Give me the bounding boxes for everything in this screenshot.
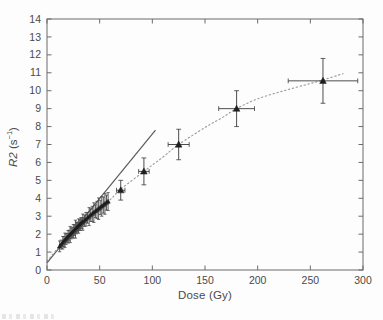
y-tick-label: 14: [29, 13, 41, 25]
y-tick-label: 10: [29, 84, 41, 96]
cropped-caption-artifact: [2, 314, 54, 319]
y-axis-label: R2 (s−1): [7, 87, 23, 207]
x-axis-label: Dose (Gy): [47, 289, 363, 301]
y-axis-unit-exponent: −1: [5, 131, 14, 140]
fit-curve-dotted: [47, 74, 343, 261]
y-tick-label: 7: [35, 138, 41, 150]
y-tick-label: 3: [35, 210, 41, 222]
y-tick-label: 13: [29, 31, 41, 43]
y-tick-label: 12: [29, 48, 41, 60]
x-tick-label: 250: [302, 274, 320, 286]
x-tick-label: 50: [94, 274, 106, 286]
y-tick-label: 6: [35, 156, 41, 168]
x-tick-label: 100: [144, 274, 162, 286]
x-tick-label: 150: [196, 274, 214, 286]
y-tick-label: 9: [35, 102, 41, 114]
y-tick-label: 8: [35, 120, 41, 132]
y-tick-label: 0: [35, 264, 41, 276]
y-axis-unit-close: ): [7, 127, 19, 131]
axis-box: [47, 19, 363, 270]
y-tick-label: 4: [35, 192, 41, 204]
x-tick-label: 300: [354, 274, 372, 286]
y-tick-label: 5: [35, 174, 41, 186]
y-tick-label: 2: [35, 228, 41, 240]
y-tick-label: 1: [35, 246, 41, 258]
x-tick-label: 0: [44, 274, 50, 286]
chart-svg: 05010015020025030001234567891011121314: [0, 0, 383, 320]
figure-canvas: 05010015020025030001234567891011121314 D…: [0, 0, 383, 320]
y-axis-variable: R2: [7, 152, 19, 167]
x-tick-label: 200: [249, 274, 267, 286]
y-axis-unit-open: (s: [7, 139, 19, 152]
y-tick-label: 11: [30, 66, 41, 78]
